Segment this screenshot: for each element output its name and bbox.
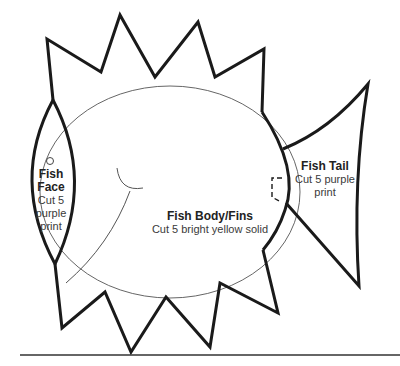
face-title: Fish Face — [28, 168, 74, 194]
top-fins — [47, 15, 264, 112]
body-title: Fish Body/Fins — [130, 210, 290, 223]
mouth-line — [66, 191, 130, 283]
tail-label: Fish Tail Cut 5 purple print — [285, 160, 365, 199]
tail-title: Fish Tail — [285, 160, 365, 173]
body-label: Fish Body/Fins Cut 5 bright yellow solid — [130, 210, 290, 236]
mouth-curve — [117, 168, 143, 189]
body-instr-1: Cut 5 bright yellow solid — [130, 223, 290, 236]
bottom-fins — [55, 250, 278, 352]
body-outline — [40, 86, 300, 298]
tail-instr-2: print — [285, 186, 365, 199]
face-instr-2: purple — [28, 207, 74, 220]
eye-circle — [47, 158, 54, 165]
face-instr-3: print — [28, 220, 74, 233]
tail-instr-1: Cut 5 purple — [285, 173, 365, 186]
tail-overlap-dashed — [272, 178, 282, 201]
face-label: Fish Face Cut 5 purple print — [28, 168, 74, 233]
face-instr-1: Cut 5 — [28, 194, 74, 207]
